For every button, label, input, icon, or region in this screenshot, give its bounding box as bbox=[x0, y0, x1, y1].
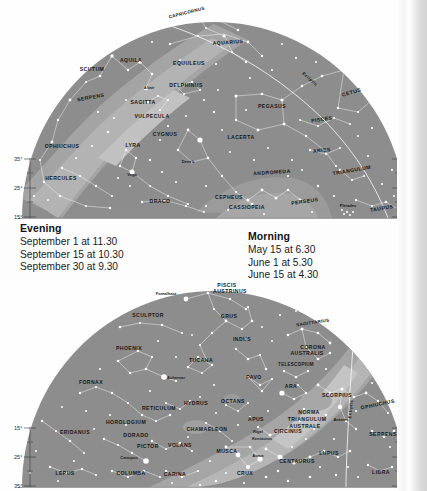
constellation-label-delphinus: DELPHINUS bbox=[169, 82, 203, 88]
star-label-rigel: Rigel bbox=[253, 429, 263, 434]
constellation-label-octans: OCTANS bbox=[221, 398, 245, 404]
scale-left-label-35: 35° bbox=[14, 156, 22, 162]
scale-right-label-35: 35° bbox=[406, 156, 414, 162]
morning-line-3: June 15 at 4.30 bbox=[248, 269, 318, 282]
constellation-label-pavo: PAVO bbox=[246, 374, 261, 380]
scale-right-label-25: 25° bbox=[406, 454, 414, 460]
north-sky-svg: 35° 25° 15° 35° 25° 15° Ecliptic CAPRICO… bbox=[0, 0, 427, 222]
constellation-label-triangulum: TRIANGULUM bbox=[288, 416, 327, 422]
constellation-label-hercules: HERCULES bbox=[45, 175, 77, 181]
constellation-label-aquila: AQUILA bbox=[120, 57, 142, 63]
constellation-label-vulpecula: VULPECULA bbox=[134, 113, 169, 119]
constellation-label-carina: CARINA bbox=[164, 471, 187, 477]
scale-left-label-15: 15° bbox=[14, 425, 22, 431]
constellation-label-australis: AUSTRALIS bbox=[290, 350, 323, 356]
constellation-label-scutum: SCUTUM bbox=[80, 66, 105, 72]
star-label-achernar: Achernar bbox=[167, 375, 185, 380]
constellation-label-apus: APUS bbox=[248, 416, 264, 422]
constellation-label-scorpius: SCORPIUS bbox=[322, 392, 352, 398]
evening-column: Evening September 1 at 11.30 September 1… bbox=[20, 222, 124, 274]
scale-right-label-15: 15° bbox=[406, 214, 414, 220]
constellation-label-sagitta: SAGITTA bbox=[130, 99, 155, 105]
constellation-label-serpens: SERPENS bbox=[369, 431, 397, 437]
star-label-fomalhaut: Fomalhaut bbox=[156, 291, 177, 296]
constellation-label-sculptor: SCULPTOR bbox=[132, 312, 164, 318]
constellation-label-equuleus: EQUULEUS bbox=[173, 60, 205, 66]
constellation-label-dorado: DORADO bbox=[123, 432, 148, 438]
star-label-pleiades: Pleiades bbox=[340, 203, 357, 208]
star-label-canopus: Canopus bbox=[120, 455, 138, 460]
constellation-label-grus: GRUS bbox=[221, 313, 238, 319]
constellation-label-cassiopeia: CASSIOPEIA bbox=[229, 204, 265, 210]
evening-line-3: September 30 at 9.30 bbox=[20, 261, 124, 274]
scale-left-label-25: 25° bbox=[14, 454, 22, 460]
star-label-vega: Vega bbox=[127, 172, 137, 177]
constellation-label-norma: NORMA bbox=[298, 409, 320, 415]
constellation-label-crux: CRUX bbox=[237, 470, 253, 476]
evening-heading: Evening bbox=[20, 222, 124, 234]
morning-column: Morning May 15 at 6.30 June 1 at 5.30 Ju… bbox=[248, 222, 318, 282]
constellation-label-horologium: HOROLOGIUM bbox=[106, 419, 146, 425]
evening-line-1: September 1 at 11.30 bbox=[20, 236, 124, 249]
constellation-label-centaurus: CENTAURUS bbox=[279, 458, 315, 464]
constellation-label-fornax: FORNAX bbox=[79, 379, 103, 385]
constellation-label-columba: COLUMBA bbox=[116, 470, 145, 476]
constellation-label-phoenix: PHOENIX bbox=[116, 345, 142, 351]
evening-line-2: September 15 at 10.30 bbox=[20, 249, 124, 262]
constellation-label-volans: VOLANS bbox=[168, 442, 192, 448]
morning-line-1: May 15 at 6.30 bbox=[248, 244, 318, 257]
constellation-label-chamaeleon: CHAMAELEON bbox=[186, 426, 227, 432]
star-label-antares: Antares bbox=[333, 417, 349, 422]
constellation-label-telescopium: TELESCOPIUM bbox=[278, 362, 314, 367]
constellation-label-ara: ARA bbox=[285, 383, 297, 389]
constellation-label-reticulum: RETICULUM bbox=[142, 405, 176, 411]
scale-left-label-15: 15° bbox=[14, 214, 22, 220]
constellation-label-lepus: LEPUS bbox=[55, 470, 74, 476]
star-label-acrux: Acrux bbox=[252, 453, 264, 458]
constellation-label-lyra: LYRA bbox=[125, 142, 140, 148]
scale-left-label-35: 35° bbox=[14, 483, 22, 489]
constellation-label-draco: DRACO bbox=[150, 198, 171, 204]
constellation-label-indus: INDUS bbox=[233, 336, 251, 342]
constellation-label-ophiuchus: OPHIUCHUS bbox=[45, 143, 80, 149]
scale-right-label-25: 25° bbox=[406, 185, 414, 191]
constellation-label-pictor: PICTOR bbox=[137, 443, 159, 449]
star-label-altair: Altair bbox=[144, 85, 155, 90]
constellation-label-austrinus: AUSTRINUS bbox=[213, 288, 247, 294]
constellation-label-circinus: CIRCINUS bbox=[274, 428, 302, 434]
constellation-label-eridanus: ERIDANUS bbox=[60, 429, 90, 435]
constellation-label-cygnus: CYGNUS bbox=[153, 131, 178, 137]
morning-line-2: June 1 at 5.30 bbox=[248, 257, 318, 270]
constellation-label-libra: LIBRA bbox=[372, 469, 390, 475]
constellation-label-lupus: LUPUS bbox=[319, 450, 339, 456]
morning-heading: Morning bbox=[248, 230, 318, 242]
constellation-label-cepheus: CEPHEUS bbox=[215, 194, 243, 200]
constellation-label-tucana: TUCANA bbox=[189, 357, 213, 363]
star-label-kentaurus: Kentaurus bbox=[252, 436, 273, 441]
scale-right-label-15: 15° bbox=[406, 425, 414, 431]
constellation-label-pegasus: PEGASUS bbox=[258, 103, 286, 109]
star-label-deneb: Deneb bbox=[182, 159, 195, 164]
south-sky-chart: 15° 25° 35° 15° 25° 35° Ecliptic PISCISA… bbox=[0, 281, 427, 491]
constellation-label-musca: MUSCA bbox=[217, 448, 238, 454]
caption-block: Evening September 1 at 11.30 September 1… bbox=[0, 222, 427, 284]
north-sky-chart: 35° 25° 15° 35° 25° 15° Ecliptic CAPRICO… bbox=[0, 0, 427, 222]
scale-right-label-35: 35° bbox=[406, 483, 414, 489]
constellation-label-hydrus: HYDRUS bbox=[184, 400, 208, 406]
scale-left-label-25: 25° bbox=[14, 185, 22, 191]
south-sky-svg: 15° 25° 35° 15° 25° 35° Ecliptic PISCISA… bbox=[0, 281, 427, 491]
constellation-label-lacerta: LACERTA bbox=[227, 134, 254, 140]
